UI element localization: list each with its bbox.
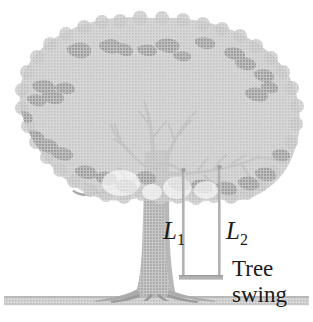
caption-line-1: Tree [232, 256, 287, 282]
tree-swing-figure: L1 L2 Tree swing [0, 0, 313, 322]
swing-seat [179, 275, 223, 280]
label-L2-symbol: L [226, 217, 240, 244]
label-L2-subscript: 2 [240, 231, 248, 248]
label-rope-length-2: L2 [226, 218, 248, 248]
label-L1-symbol: L [163, 217, 177, 244]
label-L1-subscript: 1 [177, 231, 185, 248]
tree-canopy [15, 11, 304, 206]
label-tree-swing-caption: Tree swing [232, 256, 287, 308]
caption-line-2: swing [232, 282, 287, 308]
label-rope-length-1: L1 [163, 218, 185, 248]
